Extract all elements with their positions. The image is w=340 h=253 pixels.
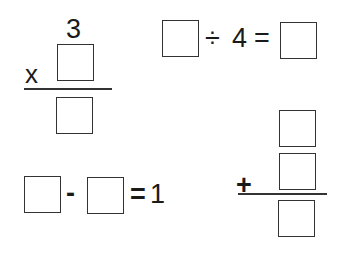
addend-2-box[interactable]: [279, 153, 316, 190]
sum-box[interactable]: [278, 200, 315, 237]
multiplicand: 3: [66, 16, 81, 43]
minus-sign: -: [66, 180, 75, 207]
equals-sign: =: [130, 181, 146, 208]
divisor: 4: [232, 25, 247, 52]
minuend-box[interactable]: [24, 176, 61, 213]
addition-line: [238, 193, 327, 195]
plus-sign: +: [236, 172, 252, 199]
multiply-sign: x: [25, 61, 38, 87]
divide-sign: ÷: [205, 25, 220, 52]
multiplier-box[interactable]: [57, 44, 94, 81]
addend-1-box[interactable]: [279, 110, 316, 147]
product-box[interactable]: [56, 97, 93, 134]
quotient-box[interactable]: [280, 22, 317, 59]
multiplication-line: [24, 88, 112, 90]
dividend-box[interactable]: [162, 20, 199, 57]
subtrahend-box[interactable]: [87, 177, 124, 214]
equals-sign: =: [254, 25, 270, 52]
difference: 1: [150, 181, 165, 208]
